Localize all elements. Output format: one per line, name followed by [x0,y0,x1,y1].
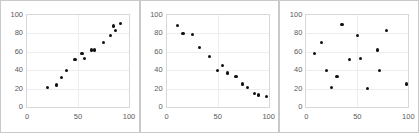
y-axis-tick-label: 20 [154,85,162,93]
plot-area-wrapper: 020406080100050100 [141,1,279,132]
x-axis-tick-labels: 050100 [305,113,409,125]
data-point [253,92,256,95]
gridline-horizontal [306,89,408,90]
y-axis-tick-labels: 020406080100 [143,14,163,108]
chart-panel-1: 020406080100050100 [0,0,140,133]
data-point [226,71,229,74]
data-point [181,32,184,35]
data-point [93,48,96,51]
data-point [109,34,112,37]
x-axis-tick-label: 0 [165,113,169,121]
data-point [73,58,76,61]
y-axis-tick-label: 40 [294,66,302,74]
y-axis-tick-label: 60 [294,48,302,56]
data-point [112,24,115,27]
data-point [102,41,105,44]
plot-axes [26,14,130,108]
data-point [234,75,237,78]
y-axis-tick-label: 80 [15,30,23,38]
data-point [83,57,86,60]
data-point [366,87,369,90]
data-point [114,29,117,32]
chart-panel-3: 020406080100050100 [279,0,419,133]
data-point [198,46,201,49]
gridline-horizontal [167,89,269,90]
data-point [176,24,179,27]
gridline-vertical [218,15,219,107]
y-axis-tick-label: 40 [154,66,162,74]
x-axis-tick-labels: 050100 [166,113,270,125]
plot-area-wrapper: 020406080100050100 [1,1,139,132]
data-point [359,57,362,60]
data-point [80,52,83,55]
gridline-vertical [78,15,79,107]
gridline-horizontal [306,70,408,71]
data-point [376,48,379,51]
gridline-horizontal [167,52,269,53]
data-point [60,76,63,79]
data-point [241,82,244,85]
data-point [191,33,194,36]
data-point [320,41,323,44]
data-point [335,75,338,78]
gridline-horizontal [27,52,129,53]
data-point [405,82,408,85]
gridline-horizontal [27,70,129,71]
y-axis-tick-label: 20 [294,85,302,93]
x-axis-tick-label: 100 [402,113,415,121]
plot-area-wrapper: 020406080100050100 [280,1,418,132]
x-axis-tick-label: 50 [74,113,82,121]
plot-axes [166,14,270,108]
y-axis-tick-label: 80 [154,30,162,38]
y-axis-tick-label: 100 [10,11,23,19]
data-point [313,52,316,55]
data-point [65,69,68,72]
y-axis-tick-label: 0 [158,103,162,111]
y-axis-tick-label: 0 [19,103,23,111]
data-point [216,69,219,72]
gridline-horizontal [27,33,129,34]
x-axis-tick-label: 50 [353,113,361,121]
plot-axes [305,14,409,108]
y-axis-tick-label: 60 [15,48,23,56]
y-axis-tick-labels: 020406080100 [282,14,302,108]
data-point [257,93,260,96]
x-axis-tick-label: 50 [213,113,221,121]
y-axis-tick-label: 100 [290,11,303,19]
scatter-plot-figure: 0204060801000501000204060801000501000204… [0,0,419,133]
y-axis-tick-label: 20 [15,85,23,93]
x-axis-tick-label: 0 [304,113,308,121]
chart-panel-2: 020406080100050100 [140,0,280,133]
gridline-vertical [357,15,358,107]
data-point [340,23,343,26]
y-axis-tick-label: 100 [150,11,163,19]
data-point [55,83,58,86]
data-point [221,64,224,67]
data-point [348,58,351,61]
data-point [265,95,268,98]
y-axis-tick-label: 40 [15,66,23,74]
data-point [208,55,211,58]
data-point [119,22,122,25]
data-point [325,69,328,72]
x-axis-tick-label: 0 [25,113,29,121]
data-point [378,69,381,72]
x-axis-tick-label: 100 [262,113,275,121]
y-axis-tick-label: 0 [298,103,302,111]
x-axis-tick-labels: 050100 [26,113,130,125]
y-axis-tick-labels: 020406080100 [3,14,23,108]
gridline-horizontal [306,52,408,53]
y-axis-tick-label: 60 [154,48,162,56]
data-point [356,34,359,37]
x-axis-tick-label: 100 [123,113,136,121]
data-point [385,29,388,32]
y-axis-tick-label: 80 [294,30,302,38]
gridline-horizontal [27,89,129,90]
